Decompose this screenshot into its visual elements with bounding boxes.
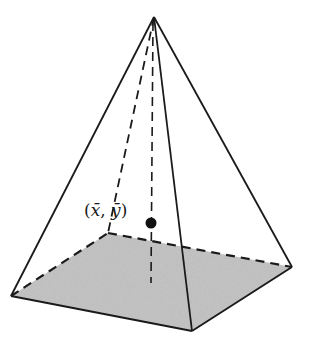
- pyramid-diagram: (x̄, ȳ): [0, 0, 312, 347]
- centroid-label-sep: ,: [100, 200, 111, 220]
- centroid-label-close: ): [121, 200, 128, 220]
- lateral-edge-right: [154, 17, 292, 267]
- centroid-point: [146, 218, 157, 229]
- centroid-label: (x̄, ȳ): [84, 200, 127, 220]
- centroid-label-y: ȳ: [110, 200, 121, 220]
- centroid-label-open: (: [84, 200, 91, 220]
- centroid-label-x: x̄: [91, 200, 101, 220]
